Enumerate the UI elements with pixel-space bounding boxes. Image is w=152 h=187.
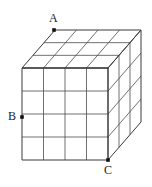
figure-canvas: A B C <box>0 0 152 187</box>
vertex-label-c: C <box>104 164 112 176</box>
vertex-label-b: B <box>8 110 16 122</box>
marker-b <box>20 115 24 119</box>
right-face-grid <box>108 43 141 148</box>
vertex-label-a: A <box>49 12 58 24</box>
grid-box-diagram <box>0 0 152 187</box>
marker-c <box>106 158 110 162</box>
marker-a <box>52 28 56 32</box>
front-face-grid <box>22 68 108 160</box>
